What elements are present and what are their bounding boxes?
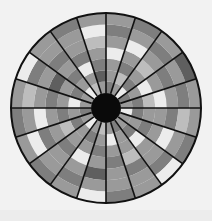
- wheel-hub: [91, 93, 121, 123]
- radial-grid-wheel: [0, 0, 212, 221]
- bottom-strip: [0, 210, 212, 221]
